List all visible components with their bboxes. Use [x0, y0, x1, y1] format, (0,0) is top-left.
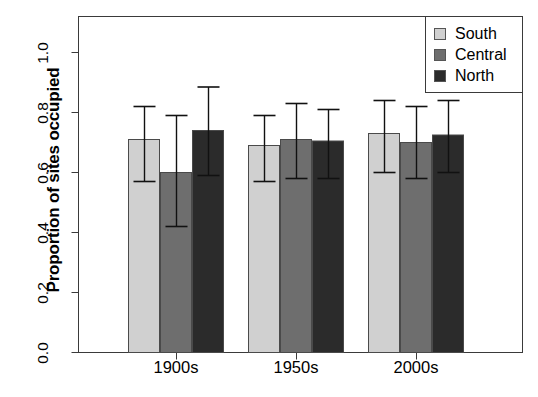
legend-item: Central — [426, 44, 522, 65]
legend-item-label: North — [455, 68, 494, 84]
legend-item: South — [426, 23, 522, 44]
bar-chart-figure: Proportion of sites occupied 0.00.20.40.… — [0, 0, 538, 397]
legend-swatch-icon — [434, 70, 446, 82]
legend: SouthCentralNorth — [425, 16, 523, 93]
y-axis-ticks — [72, 53, 79, 353]
legend-swatch-icon — [434, 49, 446, 61]
legend-item-label: Central — [455, 47, 507, 63]
legend-item-label: South — [455, 26, 497, 42]
legend-swatch-icon — [434, 28, 446, 40]
legend-item: North — [426, 65, 522, 86]
x-axis-ticks — [177, 353, 417, 360]
